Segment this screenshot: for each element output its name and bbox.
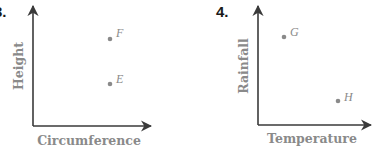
data-point-h: [336, 99, 341, 104]
y-axis-label: Height: [11, 42, 26, 90]
chart-4: 4. Rainfall Temperature G H: [216, 3, 371, 146]
point-label-e: E: [115, 72, 124, 86]
figure-canvas: 3. Height Circumference F E 4. Rainfall …: [0, 0, 373, 151]
x-axis-label: Temperature: [267, 131, 357, 146]
point-label-g: G: [290, 25, 299, 39]
data-point-g: [282, 35, 287, 40]
problem-number: 4.: [216, 3, 229, 20]
data-point-f: [108, 37, 113, 42]
chart-3: 3. Height Circumference F E: [0, 3, 151, 148]
x-axis-label: Circumference: [37, 133, 141, 148]
point-label-f: F: [115, 26, 124, 40]
data-point-e: [108, 82, 113, 87]
point-label-h: H: [343, 90, 354, 104]
problem-number: 3.: [0, 3, 7, 20]
y-axis-label: Rainfall: [236, 38, 251, 94]
